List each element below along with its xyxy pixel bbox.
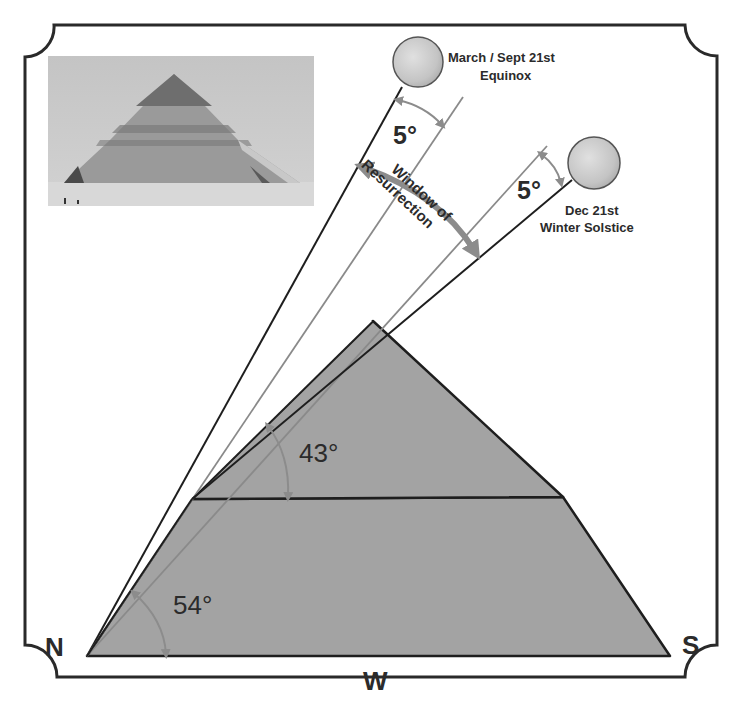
equinox-label-line1: March / Sept 21st <box>448 50 556 65</box>
solstice-angle-arrow <box>541 154 561 183</box>
equinox-angle-label: 5° <box>393 121 417 149</box>
north-label: N <box>45 632 64 662</box>
solstice-label-line2: Winter Solstice <box>540 220 634 235</box>
equinox-label-line2: Equinox <box>480 68 532 83</box>
west-label: W <box>363 666 388 696</box>
south-label: S <box>682 630 699 660</box>
equinox-sun-icon <box>393 37 443 87</box>
pyramid-upper-section <box>192 321 563 499</box>
solstice-sun-icon <box>568 137 620 189</box>
pyramid-photo <box>48 56 314 206</box>
lower-slope-angle-label: 54° <box>173 590 212 620</box>
solstice-angle-label: 5° <box>517 176 541 204</box>
solstice-label-line1: Dec 21st <box>565 203 619 218</box>
upper-slope-angle-label: 43° <box>299 438 338 468</box>
diagram-canvas: March / Sept 21st Equinox Dec 21st Winte… <box>0 0 740 722</box>
